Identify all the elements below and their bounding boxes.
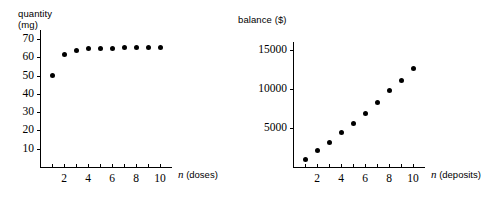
y-tick-label: 60 <box>0 50 34 62</box>
chart-panel-quantity: quantity (mg) 10203040506070 246810 n (d… <box>0 0 236 205</box>
y-tick-label: 70 <box>0 32 34 44</box>
data-point <box>303 157 308 162</box>
x-tick-mark <box>389 164 390 168</box>
x-tick-mark <box>365 164 366 168</box>
y-tick-mark <box>290 128 294 129</box>
data-point <box>98 46 103 51</box>
data-point <box>110 46 115 51</box>
y-tick-label: 15000 <box>235 43 287 55</box>
y-tick-mark <box>37 149 41 150</box>
y-tick-label: 30 <box>0 105 34 117</box>
x-tick-mark <box>305 164 306 168</box>
y-tick-label: 10000 <box>235 82 287 94</box>
y-tick-mark <box>37 57 41 58</box>
data-point <box>375 100 380 105</box>
x-tick-mark <box>88 164 89 168</box>
x-tick-mark <box>329 164 330 168</box>
x-axis-unit-right: (deposits) <box>439 169 481 180</box>
y-axis-title-balance: balance ($) <box>238 14 338 25</box>
data-point <box>399 78 404 83</box>
x-axis-label-deposits: n (deposits) <box>431 168 481 180</box>
x-tick-mark <box>148 164 149 168</box>
y-tick-label: 40 <box>0 87 34 99</box>
x-tick-mark <box>52 164 53 168</box>
x-tick-label: 10 <box>398 172 428 184</box>
data-point <box>363 111 368 116</box>
x-tick-mark <box>76 164 77 168</box>
data-point <box>62 52 67 57</box>
x-axis-variable-left: n <box>178 168 184 180</box>
x-tick-mark <box>136 164 137 168</box>
x-tick-mark <box>124 164 125 168</box>
y-tick-mark <box>290 50 294 51</box>
data-point <box>158 45 163 50</box>
y-tick-label: 5000 <box>235 121 287 133</box>
data-point <box>351 121 356 126</box>
y-axis-line-right <box>293 42 294 167</box>
data-point <box>339 130 344 135</box>
data-point <box>50 73 55 78</box>
data-point <box>387 88 392 93</box>
y-tick-mark <box>37 130 41 131</box>
x-tick-mark <box>100 164 101 168</box>
data-point <box>74 48 79 53</box>
x-axis-unit-left: (doses) <box>186 169 218 180</box>
x-axis-variable-right: n <box>431 168 437 180</box>
x-tick-mark <box>353 164 354 168</box>
y-axis-line-left <box>40 30 41 167</box>
x-tick-mark <box>64 164 65 168</box>
data-point <box>315 148 320 153</box>
y-tick-label: 20 <box>0 123 34 135</box>
x-tick-mark <box>160 164 161 168</box>
x-tick-mark <box>401 164 402 168</box>
y-tick-label: 50 <box>0 69 34 81</box>
y-tick-mark <box>37 94 41 95</box>
x-tick-mark <box>112 164 113 168</box>
data-point <box>122 45 127 50</box>
y-tick-mark <box>290 89 294 90</box>
x-tick-label: 10 <box>145 172 175 184</box>
x-tick-mark <box>317 164 318 168</box>
y-tick-mark <box>37 76 41 77</box>
data-point <box>411 66 416 71</box>
chart-panel-balance: balance ($) 50001000015000 246810 n (dep… <box>236 0 472 205</box>
x-tick-mark <box>377 164 378 168</box>
x-axis-label-doses: n (doses) <box>178 168 218 180</box>
data-point <box>86 46 91 51</box>
x-axis-line-right <box>293 167 425 168</box>
data-point <box>327 140 332 145</box>
x-axis-line-left <box>40 167 172 168</box>
data-point <box>146 45 151 50</box>
y-tick-mark <box>37 112 41 113</box>
y-tick-label: 10 <box>0 142 34 154</box>
x-tick-mark <box>341 164 342 168</box>
x-tick-mark <box>413 164 414 168</box>
y-axis-title-quantity: quantity (mg) <box>18 8 88 30</box>
y-tick-mark <box>37 39 41 40</box>
data-point <box>134 45 139 50</box>
